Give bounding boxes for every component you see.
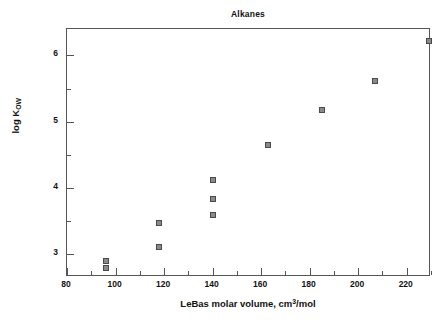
x-axis-tick-label: 220 xyxy=(386,279,426,289)
data-point xyxy=(372,78,378,84)
x-axis-title-exponent: 3 xyxy=(292,298,296,305)
x-axis-tick-minor xyxy=(237,271,238,275)
data-point xyxy=(426,38,432,44)
y-axis-tick-label: 3 xyxy=(40,247,58,257)
y-axis-tick-major xyxy=(67,188,74,189)
data-point xyxy=(319,107,325,113)
plot-area xyxy=(66,28,430,276)
y-axis-tick-major xyxy=(67,122,74,123)
y-axis-title-subscript: OW xyxy=(15,98,22,110)
y-axis-tick-label: 6 xyxy=(40,48,58,58)
y-axis-tick-label: 4 xyxy=(40,181,58,191)
x-axis-tick-label: 140 xyxy=(192,279,232,289)
data-point xyxy=(210,196,216,202)
y-axis-tick-major xyxy=(67,55,74,56)
data-point xyxy=(103,258,109,264)
x-axis-tick-minor xyxy=(91,271,92,275)
x-axis-tick-major xyxy=(407,268,408,275)
x-axis-tick-major xyxy=(261,268,262,275)
x-axis-tick-label: 160 xyxy=(240,279,280,289)
x-axis-tick-major xyxy=(116,268,117,275)
x-axis-tick-label: 100 xyxy=(95,279,135,289)
data-point xyxy=(210,212,216,218)
y-axis-tick-minor xyxy=(67,89,71,90)
data-point xyxy=(156,220,162,226)
x-axis-tick-minor xyxy=(285,271,286,275)
x-axis-tick-major xyxy=(164,268,165,275)
x-axis-tick-label: 180 xyxy=(289,279,329,289)
x-axis-tick-major xyxy=(213,268,214,275)
y-axis-tick-major xyxy=(67,254,74,255)
x-axis-tick-label: 80 xyxy=(46,279,86,289)
plot-data-layer xyxy=(67,29,429,275)
y-axis-tick-label: 5 xyxy=(40,115,58,125)
x-axis-tick-major xyxy=(310,268,311,275)
chart-figure: Alkanes 801001201401601802002203456 LeBa… xyxy=(0,0,437,325)
x-axis-title: LeBas molar volume, cm3/mol xyxy=(66,298,430,309)
x-axis-tick-major xyxy=(358,268,359,275)
y-axis-tick-minor xyxy=(67,221,71,222)
x-axis-tick-minor xyxy=(188,271,189,275)
x-axis-tick-major xyxy=(67,268,68,275)
chart-title: Alkanes xyxy=(66,9,430,19)
data-point xyxy=(265,142,271,148)
y-axis-tick-minor xyxy=(67,155,71,156)
x-axis-tick-minor xyxy=(334,271,335,275)
x-axis-tick-minor xyxy=(382,271,383,275)
data-point xyxy=(156,244,162,250)
data-point xyxy=(210,177,216,183)
y-axis-title: log KOW xyxy=(10,56,22,176)
x-axis-tick-label: 200 xyxy=(337,279,377,289)
data-point xyxy=(103,265,109,271)
x-axis-tick-minor xyxy=(140,271,141,275)
x-axis-tick-label: 120 xyxy=(143,279,183,289)
x-axis-tick-minor xyxy=(431,271,432,275)
